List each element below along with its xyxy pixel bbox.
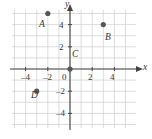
data-point-a xyxy=(45,11,50,16)
x-axis-label: x xyxy=(143,63,147,73)
x-tick-label-2: 2 xyxy=(88,73,93,82)
y-tick-label-neg2: –2 xyxy=(56,87,65,96)
x-axis-arrowhead xyxy=(136,66,143,72)
y-tick-label-4: 4 xyxy=(59,21,64,30)
y-axis-label: y xyxy=(65,0,69,10)
point-label-d: D xyxy=(31,91,38,101)
data-point-b xyxy=(101,22,106,27)
origin-tick-label: 0 xyxy=(62,73,67,82)
coordinate-plane-figure: –4–224042–2–4xyABCD xyxy=(0,0,152,139)
point-label-b: B xyxy=(105,33,111,43)
x-tick-label--4: –4 xyxy=(21,73,30,82)
axis-lines xyxy=(10,4,143,130)
data-point-c xyxy=(67,66,72,71)
x-tick-label-4: 4 xyxy=(110,73,115,82)
x-tick-label--2: –2 xyxy=(43,73,52,82)
plot-canvas xyxy=(0,0,152,139)
y-tick-label-2: 2 xyxy=(59,43,64,52)
point-label-a: A xyxy=(39,20,45,30)
point-label-c: C xyxy=(72,50,78,60)
y-tick-label-neg4: –4 xyxy=(56,109,65,118)
